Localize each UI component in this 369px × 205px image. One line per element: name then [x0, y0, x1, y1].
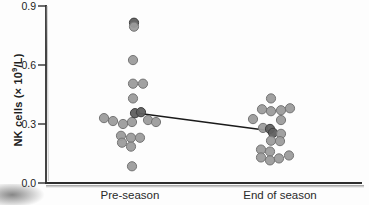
data-point — [256, 153, 265, 162]
data-point — [276, 106, 285, 115]
data-point — [138, 79, 147, 88]
y-axis-label: NK cells (× 109/L) — [12, 51, 24, 149]
nk-cells-scatter-figure: NK cells (× 109/L) 0.00.30.60.9Pre-seaso… — [0, 0, 369, 205]
data-point — [126, 142, 135, 151]
scatter-plot: 0.00.30.60.9Pre-seasonEnd of season — [0, 0, 369, 205]
data-point — [128, 79, 137, 88]
y-tick-label: 0.0 — [21, 177, 36, 189]
data-point — [127, 162, 136, 171]
data-point — [127, 117, 136, 126]
y-axis-label-text: NK cells (× 10 — [12, 72, 24, 147]
data-point — [266, 107, 275, 116]
x-category-label: Pre-season — [101, 189, 160, 201]
data-point — [285, 104, 294, 113]
data-point — [265, 147, 274, 156]
data-point — [126, 133, 135, 142]
y-axis-shadow — [47, 6, 48, 181]
data-point — [128, 55, 137, 64]
data-point — [266, 136, 275, 145]
x-category-label: End of season — [243, 189, 317, 201]
data-point — [135, 133, 144, 142]
data-point — [117, 138, 126, 147]
data-point — [257, 105, 266, 114]
data-point — [108, 116, 117, 125]
data-point — [118, 119, 127, 128]
y-axis-label-unit: /L) — [12, 53, 24, 67]
data-point — [151, 117, 160, 126]
mean-data-point — [136, 108, 145, 117]
data-point — [266, 94, 275, 103]
y-tick-label: 0.9 — [21, 0, 36, 12]
data-point — [275, 137, 284, 146]
data-point — [276, 115, 285, 124]
data-point — [99, 114, 108, 123]
data-point — [128, 94, 137, 103]
data-point — [265, 156, 274, 165]
data-point — [248, 114, 257, 123]
data-point — [284, 151, 293, 160]
data-point — [274, 154, 283, 163]
data-point — [129, 22, 138, 31]
y-axis-label-superscript: 9 — [10, 68, 19, 72]
